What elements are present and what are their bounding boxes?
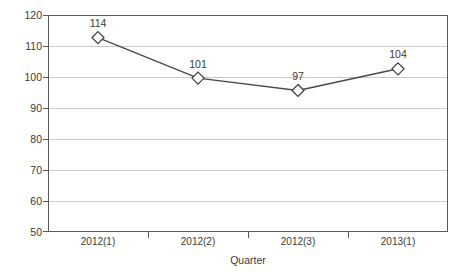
data-point-marker [92,32,104,44]
data-point-marker [392,63,404,75]
data-point-label-2: 101 [183,58,213,70]
line-chart: Number of news items 120 110 100 90 80 7… [0,0,468,278]
data-line [98,38,398,91]
data-point-label-1: 114 [83,17,113,29]
data-point-label-3: 97 [283,70,313,82]
x-tick-label-3: 2012(3) [248,236,348,247]
gridlines [48,47,448,202]
data-point-marker [192,72,204,84]
data-markers [92,32,404,97]
x-axis-title: Quarter [48,254,448,266]
x-tick-label-1: 2012(1) [48,236,148,247]
x-tick-label-4: 2013(1) [348,236,448,247]
data-point-marker [292,85,304,97]
x-tick-label-2: 2012(2) [148,236,248,247]
y-axis-ticks [43,16,48,232]
data-point-label-4: 104 [383,48,413,60]
